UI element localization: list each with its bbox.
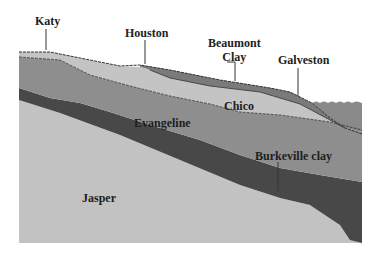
aquifer-cross-section: Katy Houston Beaumont Clay Galveston Chi… <box>0 0 378 257</box>
houston-label: Houston <box>125 27 168 39</box>
beaumont-clay-label: Beaumont Clay <box>208 37 261 63</box>
evangeline-label: Evangeline <box>134 117 191 129</box>
beaumont-leader <box>227 62 235 81</box>
jasper-label: Jasper <box>82 192 116 204</box>
beaumont-label-line1: Beaumont <box>208 37 261 49</box>
galveston-label: Galveston <box>278 54 329 66</box>
katy-label: Katy <box>35 15 60 27</box>
beaumont-label-line2: Clay <box>208 51 261 63</box>
chico-label: Chico <box>224 100 254 112</box>
burkeville-clay-label: Burkeville clay <box>255 150 332 162</box>
